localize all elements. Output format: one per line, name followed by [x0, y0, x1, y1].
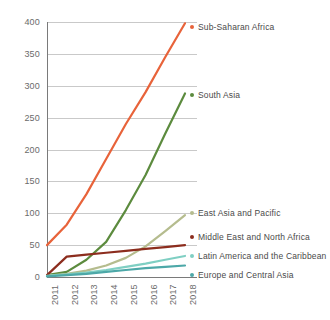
legend-color-swatch-icon [190, 235, 194, 239]
legend-item[interactable]: South Asia [190, 91, 240, 100]
legend-item-label: Sub-Saharan Africa [198, 23, 274, 32]
legend-item-label: Latin America and the Caribbean [198, 252, 326, 261]
x-axis-tick-label: 2014 [110, 284, 119, 305]
x-axis-tick-label: 2018 [189, 284, 198, 305]
legend-color-swatch-icon [190, 25, 194, 29]
x-axis-tick-label: 2016 [150, 284, 159, 305]
legend-color-swatch-icon [190, 93, 194, 97]
legend-item[interactable]: Europe and Central Asia [190, 271, 294, 280]
legend-item-label: Middle East and North Africa [198, 233, 310, 242]
x-axis-tick-label: 2011 [51, 285, 60, 305]
legend-color-swatch-icon [190, 254, 194, 258]
x-axis-tick-label: 2013 [90, 284, 99, 305]
legend-item[interactable]: East Asia and Pacific [190, 209, 281, 218]
line-chart: 050100150200250300350400 201120122013201… [0, 0, 330, 320]
legend-item-label: East Asia and Pacific [198, 209, 281, 218]
legend-item-label: South Asia [198, 91, 240, 100]
x-axis-tick-label: 2017 [169, 284, 178, 305]
legend-item[interactable]: Middle East and North Africa [190, 233, 310, 242]
legend-color-swatch-icon [190, 273, 194, 277]
x-axis-tick-label: 2015 [130, 284, 139, 305]
legend-item[interactable]: Sub-Saharan Africa [190, 23, 274, 32]
legend-item[interactable]: Latin America and the Caribbean [190, 252, 326, 261]
x-axis-tick-label: 2012 [71, 284, 80, 305]
legend-item-label: Europe and Central Asia [198, 271, 294, 280]
legend-color-swatch-icon [190, 211, 194, 215]
